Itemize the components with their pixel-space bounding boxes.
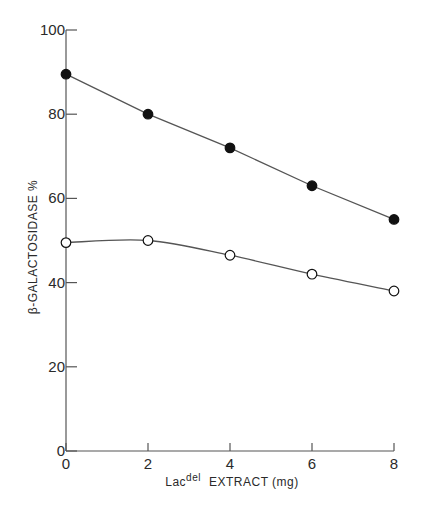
x-axis-title-rest: EXTRACT (mg) [209, 475, 299, 489]
filled-circle-marker [225, 143, 235, 153]
x-tick-label: 4 [226, 455, 234, 472]
y-tick-label: 40 [48, 274, 65, 291]
x-tick-label: 0 [62, 455, 70, 472]
open-circle-marker [143, 236, 153, 246]
y-tick-label: 80 [48, 105, 65, 122]
open-circle-marker [307, 269, 317, 279]
series-line-2 [66, 240, 394, 291]
line-chart: 02040608010002468 β-GALACTOSIDASE % Lacd… [0, 0, 425, 512]
chart-container: 02040608010002468 β-GALACTOSIDASE % Lacd… [0, 0, 425, 512]
x-tick-label: 6 [308, 455, 316, 472]
y-axis-title: β-GALACTOSIDASE % [26, 180, 40, 315]
y-tick-label: 100 [40, 21, 65, 38]
y-tick-label: 60 [48, 189, 65, 206]
y-tick-label: 20 [48, 358, 65, 375]
x-axis-title-main: Lac [165, 475, 186, 489]
open-circle-marker [389, 286, 399, 296]
filled-circle-marker [389, 215, 399, 225]
open-circle-marker [61, 238, 71, 248]
x-tick-label: 8 [390, 455, 398, 472]
x-axis-title: LacdelEXTRACT (mg) [165, 472, 299, 489]
filled-circle-marker [307, 181, 317, 191]
filled-circle-marker [143, 109, 153, 119]
x-axis-title-superscript: del [186, 472, 201, 483]
axes: 02040608010002468 [40, 21, 398, 472]
open-circle-marker [225, 250, 235, 260]
x-tick-label: 2 [144, 455, 152, 472]
series-group [61, 69, 399, 295]
filled-circle-marker [61, 69, 71, 79]
